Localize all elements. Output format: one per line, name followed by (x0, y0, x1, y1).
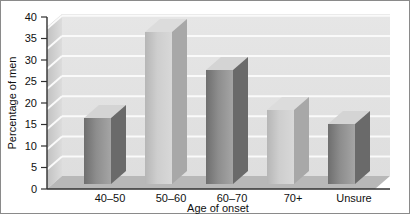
y-tick-label: 25 (25, 75, 37, 87)
y-tick-label: 5 (31, 161, 37, 173)
bar-chart: 0 5 10 15 20 25 30 35 40 40–50 50–60 60–… (0, 0, 410, 214)
y-tick-label: 40 (25, 11, 37, 23)
y-tick-label: 10 (25, 140, 37, 152)
chart-canvas: 0 5 10 15 20 25 30 35 40 40–50 50–60 60–… (0, 0, 410, 214)
category-label: 40–50 (95, 192, 126, 204)
x-axis-title: Age of onset (187, 202, 249, 214)
y-tick-label: 30 (25, 54, 37, 66)
y-tick-label: 15 (25, 118, 37, 130)
y-tick-label: 35 (25, 32, 37, 44)
y-axis-title: Percentage of men (6, 57, 18, 150)
category-label: 70+ (284, 192, 303, 204)
category-label: Unsure (336, 192, 371, 204)
y-tick-label: 0 (31, 183, 37, 195)
y-tick-label: 20 (25, 97, 37, 109)
bar-unsure (328, 111, 370, 184)
bar-50-60 (145, 19, 187, 184)
category-label: 50–60 (156, 192, 187, 204)
bar-40-50 (84, 105, 126, 184)
bar-70-plus (267, 97, 309, 184)
bar-60-70 (206, 57, 248, 184)
